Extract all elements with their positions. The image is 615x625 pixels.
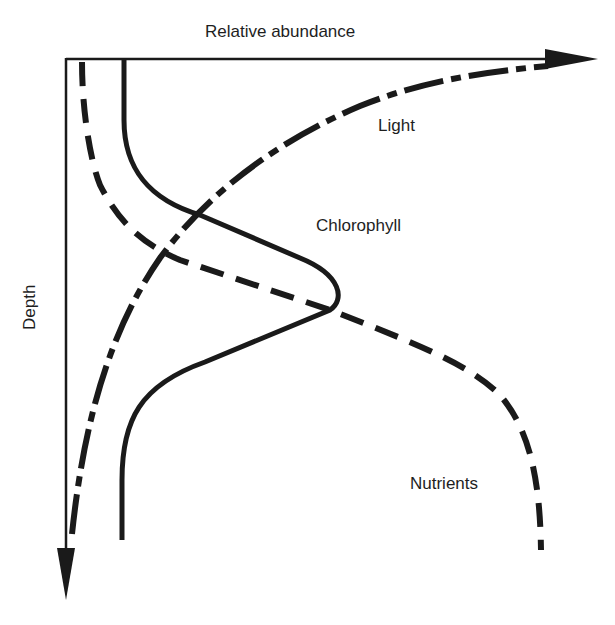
y-axis-label: Depth [20, 285, 40, 330]
light-curve [72, 66, 548, 534]
depth-profile-diagram [0, 0, 615, 625]
y-axis-arrowhead-icon [57, 548, 75, 600]
x-axis-label: Relative abundance [205, 22, 355, 42]
light-label: Light [378, 116, 415, 136]
nutrients-label: Nutrients [410, 474, 478, 494]
x-axis-arrowhead-icon [545, 49, 598, 69]
chlorophyll-label: Chlorophyll [316, 216, 401, 236]
